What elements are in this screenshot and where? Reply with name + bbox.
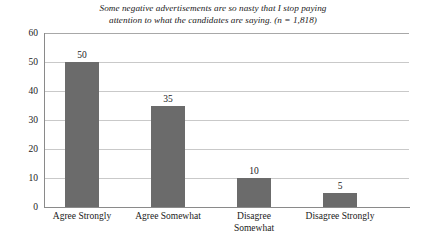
y-tick-label-40: 40 [6,86,38,96]
bar-agree-somewhat [151,106,185,208]
bar-disagree-strongly [323,193,357,208]
bar-value-label-1: 35 [138,94,198,104]
x-label-line: Disagree Strongly [285,211,395,223]
chart-title: Some negative advertisements are so nast… [0,3,426,26]
x-label-line: Somewhat [199,223,309,235]
y-tick-label-30: 30 [6,115,38,125]
x-axis-line [44,207,410,208]
y-tick-label-10: 10 [6,173,38,183]
bar-disagree-somewhat [237,178,271,207]
bar-agree-strongly [65,62,99,207]
bar-value-label-2: 10 [224,166,284,176]
y-tick-label-50: 50 [6,57,38,67]
y-tick-label-20: 20 [6,144,38,154]
chart-title-line-1: Some negative advertisements are so nast… [0,3,426,15]
bar-value-label-0: 50 [52,50,112,60]
chart-title-line-2: attention to what the candidates are say… [0,15,426,27]
x-label-disagree-strongly: Disagree Strongly [285,211,395,223]
y-tick-label-60: 60 [6,28,38,38]
bar-value-label-3: 5 [310,181,370,191]
bar-chart-figure: Some negative advertisements are so nast… [0,0,426,251]
